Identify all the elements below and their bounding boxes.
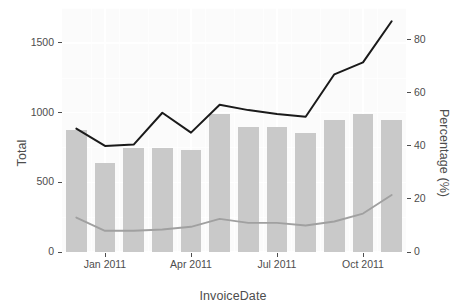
x-tick-mark — [277, 253, 278, 257]
x-tick-label: Apr 2011 — [156, 258, 226, 270]
y-tick-mark-right — [407, 198, 411, 199]
line-cumulative-percentage — [76, 21, 391, 146]
x-tick-mark — [191, 253, 192, 257]
x-tick-mark — [105, 253, 106, 257]
y-tick-label-left: 500 — [22, 175, 54, 187]
plot-title — [0, 0, 466, 1]
x-tick-mark — [363, 253, 364, 257]
y-tick-label-left: 1000 — [22, 106, 54, 118]
y-tick-mark-left — [58, 182, 62, 183]
y-tick-mark-right — [407, 252, 411, 253]
y-tick-mark-left — [58, 252, 62, 253]
y-tick-mark-right — [407, 39, 411, 40]
y-tick-mark-right — [407, 145, 411, 146]
y-tick-label-left: 1500 — [22, 36, 54, 48]
x-axis-label: InvoiceDate — [0, 289, 466, 303]
line-series-layer — [62, 8, 406, 252]
y-tick-label-right: 60 — [414, 86, 448, 98]
plot-panel — [62, 8, 406, 252]
x-tick-label: Jan 2011 — [70, 258, 140, 270]
x-tick-label: Jul 2011 — [242, 258, 312, 270]
chart-container: Total Percentage (%) InvoiceDate 0500100… — [0, 0, 466, 305]
y-tick-label-right: 20 — [414, 192, 448, 204]
line-percentage — [76, 195, 391, 231]
x-tick-label: Oct 2011 — [328, 258, 398, 270]
y-tick-label-right: 80 — [414, 33, 448, 45]
y-tick-mark-left — [58, 112, 62, 113]
y-tick-mark-right — [407, 92, 411, 93]
y-tick-label-right: 0 — [414, 245, 448, 257]
y-tick-label-left: 0 — [22, 245, 54, 257]
y-tick-label-right: 40 — [414, 139, 448, 151]
y-tick-mark-left — [58, 42, 62, 43]
